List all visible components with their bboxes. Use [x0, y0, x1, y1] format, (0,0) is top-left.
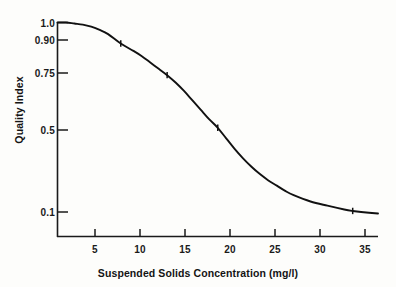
x-axis-title: Suspended Solids Concentration (mg/l): [0, 267, 396, 279]
x-tick-label-5: 5: [92, 244, 98, 255]
x-tick-label-25: 25: [269, 244, 281, 255]
y-axis-title: Quality Index: [13, 55, 25, 165]
y-tick-label-5: 0.1: [40, 207, 55, 218]
y-tick-label-4: 0.5: [40, 125, 55, 136]
x-tick-label-20: 20: [224, 244, 236, 255]
y-tick-label-3: 0.75: [35, 68, 55, 79]
x-tick-label-30: 30: [314, 244, 326, 255]
plot-area: [0, 0, 396, 287]
x-tick-label-15: 15: [179, 244, 191, 255]
y-tick-label-1: 1.0: [40, 18, 55, 29]
x-tick-marks: [95, 229, 365, 237]
y-tick-marks: [58, 23, 69, 213]
x-tick-label-35: 35: [359, 244, 371, 255]
x-tick-label-10: 10: [134, 244, 146, 255]
chart-figure: 1.0 0.90 0.75 0.5 0.1 5 10 15 20 25 30 3…: [0, 0, 396, 287]
data-curve: [58, 22, 379, 213]
y-tick-label-2: 0.90: [35, 35, 55, 46]
